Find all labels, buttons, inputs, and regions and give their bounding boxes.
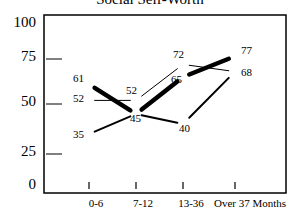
svg-text:35: 35 <box>73 128 85 140</box>
svg-text:72: 72 <box>173 48 184 60</box>
svg-text:61: 61 <box>73 72 84 84</box>
x-tick-marks <box>89 182 235 189</box>
svg-text:45: 45 <box>130 112 142 124</box>
svg-text:40: 40 <box>179 122 191 134</box>
line-chart: Social Self-Worth 100 75 50 25 0 0-6 7-1… <box>0 0 300 221</box>
svg-text:68: 68 <box>241 66 253 78</box>
svg-text:77: 77 <box>241 44 253 56</box>
svg-text:52: 52 <box>73 92 84 104</box>
svg-text:65: 65 <box>171 73 183 85</box>
series-lines <box>95 59 229 132</box>
plot-area: 61456577525272683540 <box>0 0 300 221</box>
svg-text:52: 52 <box>126 84 137 96</box>
